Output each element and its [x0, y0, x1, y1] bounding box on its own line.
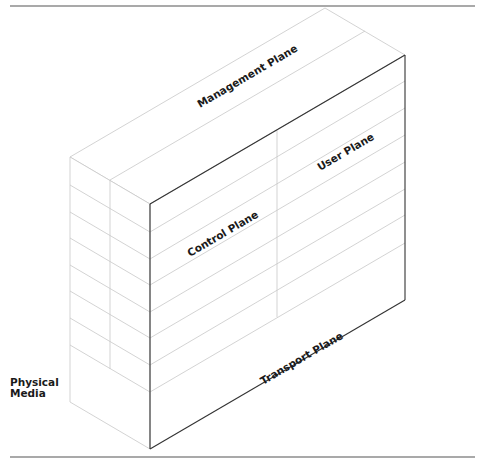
user-plane-label: User Plane: [315, 130, 376, 173]
physical-media-label: Physical Media: [10, 377, 59, 399]
physical-media-line2: Media: [10, 388, 59, 399]
management-plane-face: [70, 8, 405, 204]
transport-plane-label: Transport Plane: [258, 329, 345, 387]
side-face: [70, 157, 150, 449]
plane-model-diagram: Management Plane User Plane Control Plan…: [0, 0, 482, 466]
